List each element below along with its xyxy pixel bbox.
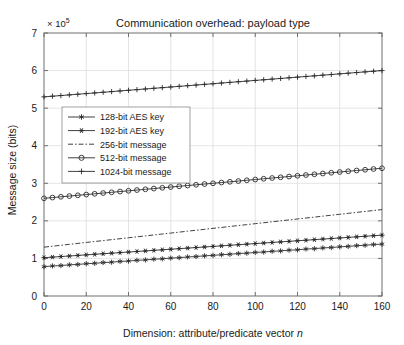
- x-axis-label: Dimension: attribute/predicate vector n: [123, 327, 303, 339]
- legend-label: 192-bit AES key: [100, 126, 165, 136]
- x-tick-label: 40: [123, 301, 135, 312]
- y-axis-exponent-base: × 10: [47, 18, 66, 29]
- x-tick-label: 120: [289, 301, 306, 312]
- legend-label: 128-bit AES key: [100, 112, 165, 122]
- legend-label: 256-bit message: [100, 140, 167, 150]
- y-tick-label: 1: [31, 253, 37, 264]
- y-tick-label: 2: [31, 215, 37, 226]
- x-tick-label: 20: [81, 301, 93, 312]
- legend-label: 1024-bit message: [100, 167, 172, 177]
- x-tick-label: 80: [207, 301, 219, 312]
- y-tick-label: 3: [31, 178, 37, 189]
- chart-background: [0, 0, 404, 345]
- y-tick-label: 7: [31, 28, 37, 39]
- y-axis-label: Message size (bits): [6, 125, 18, 215]
- y-tick-label: 5: [31, 103, 37, 114]
- x-tick-label: 0: [41, 301, 47, 312]
- x-tick-label: 100: [247, 301, 264, 312]
- y-tick-label: 6: [31, 65, 37, 76]
- chart-legend[interactable]: 128-bit AES key192-bit AES key256-bit me…: [62, 107, 190, 183]
- x-tick-label: 160: [374, 301, 391, 312]
- x-tick-label: 140: [331, 301, 348, 312]
- x-axis-label-text: Dimension: attribute/predicate vector: [123, 327, 297, 339]
- communication-overhead-line-chart: 02040608010012014016001234567 128-bit AE…: [0, 0, 404, 345]
- x-axis-label-variable: n: [297, 327, 303, 339]
- x-tick-label: 60: [165, 301, 177, 312]
- y-tick-label: 4: [31, 140, 37, 151]
- y-axis-exponent-power: 5: [66, 17, 70, 24]
- legend-label: 512-bit message: [100, 153, 167, 163]
- chart-title: Communication overhead: payload type: [116, 17, 310, 29]
- y-tick-label: 0: [31, 291, 37, 302]
- chart-figure: 02040608010012014016001234567 128-bit AE…: [0, 0, 404, 345]
